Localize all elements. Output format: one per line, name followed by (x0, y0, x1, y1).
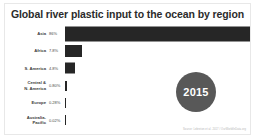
bar-value-label: 0.80% (48, 83, 65, 88)
bar-row: S. America4.8% (8, 60, 247, 77)
bar-category-label: S. America (8, 66, 48, 71)
bar (65, 63, 75, 74)
bar-category-label: Asia (8, 31, 48, 36)
bar (65, 98, 66, 108)
source-attribution: Source: Lebreton et al. 2017 / OurWorldI… (183, 128, 246, 131)
chart-screenshot: Global river plastic input to the ocean … (0, 0, 255, 139)
bar-track (65, 94, 247, 111)
bar (65, 45, 82, 57)
bar-category-label: Australia- Pacific (8, 115, 48, 126)
bar-value-label: 4.8% (48, 66, 65, 71)
bar (65, 26, 250, 41)
bar-category-label: Africa (8, 48, 48, 53)
bar-track (65, 25, 247, 42)
bar-row: Australia- Pacific0.02% (8, 112, 247, 129)
bar-value-label: 0.02% (48, 118, 65, 123)
bar (65, 115, 66, 125)
bar-category-label: Europe (8, 100, 48, 105)
bar-row: Africa7.8% (8, 42, 247, 59)
bar-track (65, 42, 247, 59)
bar (65, 81, 67, 91)
bar-track (65, 112, 247, 129)
bar-track (65, 77, 247, 94)
bar-value-label: 7.8% (48, 48, 65, 53)
year-badge: 2015 (176, 72, 216, 112)
chart-title: Global river plastic input to the ocean … (0, 8, 255, 20)
bar-track (65, 60, 247, 77)
bar-category-label: Central & N. America (8, 80, 48, 91)
bar-value-label: 0.28% (48, 100, 65, 105)
bar-value-label: 86% (48, 31, 65, 36)
bar-row: Asia86% (8, 25, 247, 42)
bar-chart-plot-area: Asia86%Africa7.8%S. America4.8%Central &… (8, 25, 247, 129)
